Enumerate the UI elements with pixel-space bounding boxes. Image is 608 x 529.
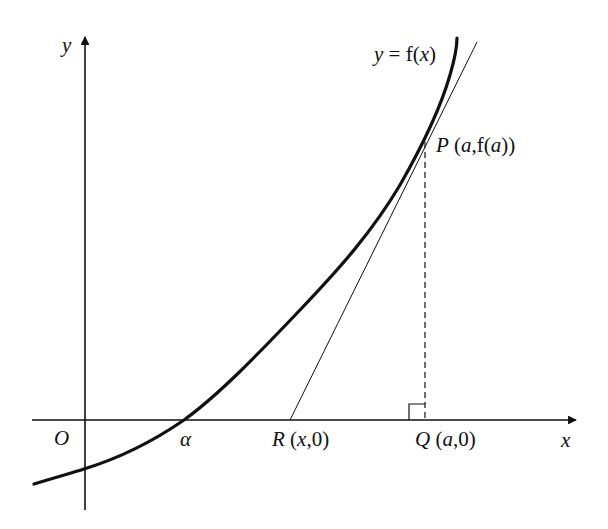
point-r-close: ,0): [306, 427, 329, 451]
point-p-var2: a: [491, 133, 502, 157]
curve-f: [34, 38, 457, 484]
point-r-name: R: [271, 427, 285, 451]
point-q-var: a: [442, 427, 453, 451]
point-q-close: ,0): [453, 427, 476, 451]
point-r-label: R (x,0): [271, 427, 329, 451]
tangent-line: [290, 42, 477, 420]
point-q-name: Q: [415, 427, 430, 451]
curve-label-y: y: [372, 42, 384, 66]
x-axis-label: x: [560, 428, 571, 452]
alpha-label: α: [180, 427, 192, 451]
point-p-close: )): [501, 133, 515, 157]
right-angle-marker: [409, 404, 425, 420]
curve-label-close: ): [429, 42, 436, 66]
y-axis-label: y: [60, 33, 72, 57]
newton-raphson-diagram: y x O α y = f(x) P (a,f(a)) R (x,0) Q (a…: [0, 0, 608, 529]
point-p-name: P: [435, 133, 449, 157]
point-q-label: Q (a,0): [415, 427, 476, 451]
point-p-var: a: [461, 133, 472, 157]
curve-label: y = f(x): [372, 42, 436, 66]
point-p-mid: ,f(: [472, 133, 491, 157]
point-r-open: (: [285, 427, 297, 451]
point-p-open: (: [449, 133, 461, 157]
point-p-label: P (a,f(a)): [435, 133, 515, 157]
origin-label: O: [54, 426, 69, 450]
curve-label-eq: = f(: [383, 42, 419, 66]
point-q-open: (: [430, 427, 442, 451]
